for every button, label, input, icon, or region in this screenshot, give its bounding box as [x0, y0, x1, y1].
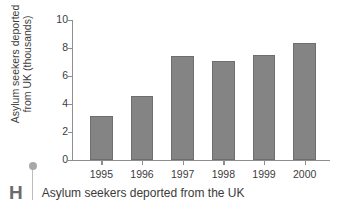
figure-footer: H Asylum seekers deported from the UK	[0, 180, 346, 205]
pin-marker-icon	[28, 180, 38, 205]
pin-stem	[32, 168, 34, 200]
y-axis-line	[72, 20, 73, 161]
x-tick	[142, 161, 143, 165]
x-tick-label: 1998	[212, 168, 235, 180]
y-tick	[68, 104, 73, 105]
y-axis-title-line-1: Asylum seekers deported	[9, 5, 22, 123]
x-tick-label: 1995	[90, 168, 113, 180]
x-tick	[264, 161, 265, 165]
x-tick-label: 1997	[171, 168, 194, 180]
bar	[212, 61, 235, 160]
x-tick	[223, 161, 224, 165]
y-tick-label: 6	[28, 69, 68, 81]
y-tick-label: 8	[28, 41, 68, 53]
y-tick-label: 4	[28, 97, 68, 109]
y-tick	[68, 132, 73, 133]
x-tick-label: 2000	[293, 168, 316, 180]
pin-dot	[29, 162, 37, 170]
x-tick-label: 1996	[130, 168, 153, 180]
y-tick	[68, 20, 73, 21]
bar	[90, 116, 113, 160]
bar	[293, 43, 316, 160]
y-tick-label: 10	[28, 13, 68, 25]
plot-area: 0246810 199519961997199819992000	[72, 20, 330, 161]
figure-caption: Asylum seekers deported from the UK	[42, 186, 245, 200]
y-tick	[68, 76, 73, 77]
y-tick	[68, 160, 73, 161]
y-tick-label: 2	[28, 125, 68, 137]
bar	[171, 56, 194, 160]
h-marker-letter: H	[9, 183, 23, 202]
x-tick-label: 1999	[252, 168, 275, 180]
y-tick	[68, 48, 73, 49]
bar	[131, 96, 154, 160]
x-tick	[101, 161, 102, 165]
bar	[253, 55, 276, 160]
x-tick	[183, 161, 184, 165]
bar-chart-figure: Asylum seekers deported from UK (thousan…	[0, 0, 346, 205]
x-tick	[305, 161, 306, 165]
x-axis-line	[72, 160, 330, 161]
